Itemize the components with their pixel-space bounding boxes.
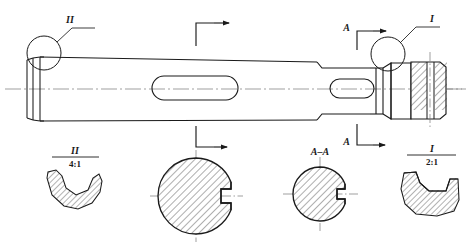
main-shaft-view: II I A A: [5, 13, 466, 147]
section-view-a-a: A–A: [283, 146, 358, 231]
detail-callout-2-label: II: [65, 14, 75, 25]
detail-view-1-profile: [395, 165, 470, 220]
detail-callout-1-label: I: [429, 13, 435, 24]
engineering-drawing-canvas: II I A A: [0, 0, 471, 247]
section-marker-unlabeled-top: [196, 23, 229, 46]
detail-view-1: I 2:1: [395, 143, 470, 220]
detail-view-2-label: II: [70, 145, 80, 156]
detail-callout-circle-2: II: [27, 14, 95, 70]
section-marker-unlabeled-bottom: [196, 126, 227, 147]
section-marker-a-top-label: A: [342, 22, 350, 33]
detail-view-1-label: I: [429, 143, 435, 154]
detail-view-2: II 4:1: [40, 145, 110, 215]
section-view-unlabeled-hatch: [158, 158, 231, 234]
section-view-unlabeled: [150, 150, 243, 242]
drawing-sheet: II I A A: [0, 0, 471, 247]
detail-view-1-scale: 2:1: [426, 157, 438, 167]
section-marker-a-top: A: [342, 22, 386, 50]
section-marker-a-bottom-label: A: [342, 136, 350, 147]
small-keyway-slot: [330, 79, 374, 98]
detail-view-2-scale: 4:1: [69, 159, 81, 169]
section-view-a-a-label: A–A: [310, 146, 330, 157]
section-marker-a-bottom: A: [342, 124, 385, 147]
detail-view-2-profile: [40, 165, 110, 215]
large-keyway-slot: [152, 76, 238, 100]
